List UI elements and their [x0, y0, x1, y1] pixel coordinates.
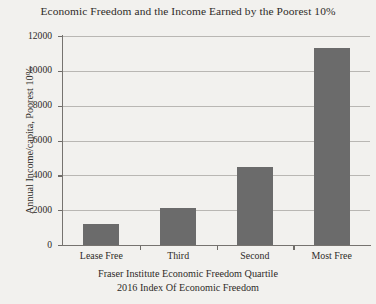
y-axis-tick-mark — [58, 36, 62, 37]
y-axis-tick-mark — [58, 71, 62, 72]
x-axis-title: Fraser Institute Economic Freedom Quarti… — [0, 267, 376, 295]
bar — [314, 48, 350, 245]
bar — [160, 208, 196, 245]
y-axis-tick-label: 8000 — [0, 99, 52, 110]
bar — [83, 224, 119, 245]
x-axis-tick-label: Most Free — [272, 250, 376, 261]
y-axis-tick-label: 4000 — [0, 169, 52, 180]
gridline — [63, 36, 370, 37]
chart-figure: Economic Freedom and the Income Earned b… — [0, 0, 376, 304]
y-axis-tick-mark — [58, 245, 62, 246]
y-axis-tick-mark — [58, 210, 62, 211]
plot-area — [63, 36, 370, 245]
x-axis-title-line1: Fraser Institute Economic Freedom Quarti… — [0, 267, 376, 281]
y-axis-tick-mark — [58, 106, 62, 107]
bar — [237, 167, 273, 245]
y-axis-tick-label: 12000 — [0, 30, 52, 41]
y-axis-tick-label: 0 — [0, 239, 52, 250]
y-axis-tick-label: 10000 — [0, 64, 52, 75]
y-axis-tick-mark — [58, 141, 62, 142]
y-axis-tick-label: 6000 — [0, 134, 52, 145]
y-axis-tick-mark — [58, 175, 62, 176]
x-axis-title-line2: 2016 Index Of Economic Freedom — [0, 281, 376, 295]
chart-title: Economic Freedom and the Income Earned b… — [0, 5, 376, 17]
y-axis-tick-label: 2000 — [0, 204, 52, 215]
